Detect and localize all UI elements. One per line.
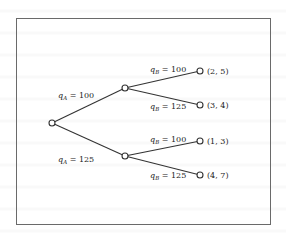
edge-root-a125 bbox=[52, 123, 125, 156]
root-node bbox=[49, 120, 55, 126]
decision-node-a100 bbox=[122, 85, 128, 91]
leaf-node-3 bbox=[197, 138, 203, 144]
edge-label-qA-100: qA = 100 bbox=[58, 91, 94, 101]
payoff-label-4: (4, 7) bbox=[207, 171, 229, 180]
payoff-label-1: (2, 5) bbox=[207, 67, 229, 76]
leaf-node-2 bbox=[197, 102, 203, 108]
decision-node-a125 bbox=[122, 153, 128, 159]
game-tree-diagram: qA = 100 qA = 125 qB = 100 qB = 125 qB =… bbox=[0, 0, 286, 239]
edge-label-qB-125-lower: qB = 125 bbox=[150, 171, 186, 181]
payoff-label-3: (1, 3) bbox=[207, 137, 229, 146]
leaf-node-1 bbox=[197, 68, 203, 74]
edge-label-qA-125: qA = 125 bbox=[58, 155, 94, 165]
payoff-label-2: (3, 4) bbox=[207, 101, 229, 110]
edge-label-qB-125-upper: qB = 125 bbox=[150, 102, 186, 112]
edge-label-qB-100-upper: qB = 100 bbox=[150, 65, 186, 75]
leaf-node-4 bbox=[197, 172, 203, 178]
edge-label-qB-100-lower: qB = 100 bbox=[150, 135, 186, 145]
